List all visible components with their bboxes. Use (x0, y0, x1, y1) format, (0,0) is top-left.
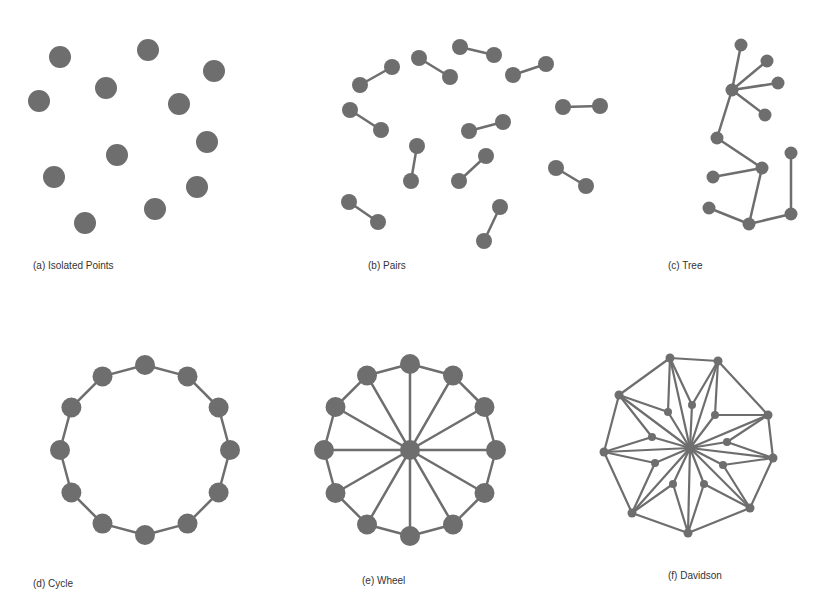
graph-node (495, 114, 511, 130)
graph-node (474, 397, 494, 417)
graph-node (373, 122, 389, 138)
caption-tree: (c) Tree (668, 260, 702, 271)
graph-edge (688, 484, 704, 533)
graph-node (370, 214, 386, 230)
graph-node (61, 398, 81, 418)
graph-node (168, 93, 190, 115)
graph-node (178, 514, 198, 534)
graph-edge (723, 458, 773, 465)
graph-node (178, 366, 198, 386)
graph-node (600, 448, 609, 457)
panel-tree (703, 39, 798, 231)
graph-edge (604, 395, 619, 452)
graph-node (74, 212, 96, 234)
graph-edge (670, 358, 692, 405)
graph-node (756, 162, 769, 175)
panel-davidson (600, 354, 778, 538)
graph-node (548, 160, 564, 176)
graph-node (628, 509, 637, 518)
graph-edge (768, 415, 773, 458)
graph-edge (718, 361, 768, 415)
graph-node (357, 514, 377, 534)
graph-edge (688, 508, 750, 533)
graph-node (700, 480, 708, 488)
graph-node (61, 483, 81, 503)
graph-node (769, 454, 778, 463)
graph-node (746, 504, 755, 513)
caption-davidson: (f) Davidson (668, 570, 722, 581)
graph-node (326, 483, 346, 503)
graph-node (443, 366, 463, 386)
graph-node (220, 440, 240, 460)
graph-node (772, 77, 785, 90)
graph-node (486, 47, 502, 63)
graph-edge (604, 452, 632, 513)
graph-node (666, 354, 675, 363)
graph-node (137, 39, 159, 61)
graph-node (505, 67, 521, 83)
graph-node (726, 84, 739, 97)
graph-node (714, 357, 723, 366)
graph-node (761, 55, 774, 68)
graph-node (186, 176, 208, 198)
graph-node (196, 131, 218, 153)
graph-node (478, 148, 494, 164)
graph-node (135, 525, 155, 545)
graph-node (203, 60, 225, 82)
graph-node (669, 480, 677, 488)
graph-node (411, 50, 427, 66)
graph-node (452, 39, 468, 55)
graph-node (384, 59, 400, 75)
graph-edge (673, 484, 688, 533)
graph-node (50, 440, 70, 460)
graph-node (538, 56, 554, 72)
graph-node (409, 138, 425, 154)
graph-node (707, 171, 720, 184)
panel-wheel (314, 354, 506, 546)
graph-node (719, 461, 727, 469)
caption-wheel: (e) Wheel (362, 575, 405, 586)
graph-edge (688, 448, 690, 533)
graph-node (651, 459, 659, 467)
graph-node (135, 355, 155, 375)
graph-node (685, 443, 696, 454)
graph-edge (604, 452, 655, 463)
graph-node (326, 397, 346, 417)
graph-edge (717, 90, 732, 138)
graph-node (711, 132, 724, 145)
graph-node (28, 90, 50, 112)
graph-node (442, 69, 458, 85)
graph-figure (0, 0, 815, 614)
graph-edge (750, 458, 773, 508)
graph-edge (619, 358, 670, 395)
graph-node (144, 198, 166, 220)
caption-pairs: (b) Pairs (368, 260, 406, 271)
graph-edge (713, 168, 762, 177)
graph-node (93, 514, 113, 534)
graph-node (209, 398, 229, 418)
graph-node (578, 178, 594, 194)
graph-node (461, 123, 477, 139)
graph-node (688, 401, 696, 409)
graph-edge (749, 168, 762, 224)
graph-node (352, 77, 368, 93)
graph-node (93, 366, 113, 386)
graph-node (314, 440, 334, 460)
graph-node (357, 366, 377, 386)
graph-node (735, 39, 748, 52)
graph-edge (670, 358, 718, 361)
graph-node (785, 208, 798, 221)
graph-node (759, 109, 772, 122)
graph-node (400, 440, 420, 460)
graph-edge (632, 513, 688, 533)
graph-node (743, 218, 756, 231)
graph-node (492, 199, 508, 215)
panel-isolated-points (28, 39, 225, 234)
graph-node (476, 233, 492, 249)
graph-node (451, 173, 467, 189)
graph-node (785, 147, 798, 160)
graph-edge (668, 358, 670, 412)
graph-node (723, 438, 731, 446)
graph-node (443, 514, 463, 534)
graph-node (486, 440, 506, 460)
